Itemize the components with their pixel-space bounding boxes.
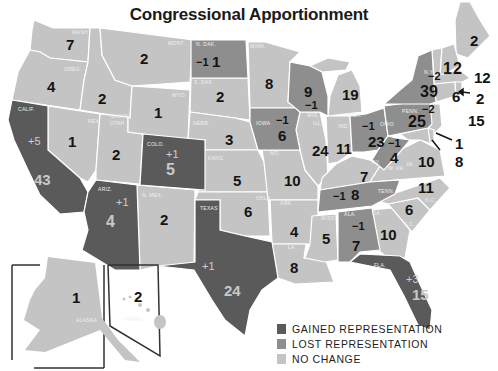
seats-idaho: 2 xyxy=(98,90,106,107)
abbr-calif: CALIF. xyxy=(18,106,35,112)
seats-ark: 4 xyxy=(290,223,299,240)
abbr-ariz: ARIZ. xyxy=(98,186,112,192)
change-wva: −1 xyxy=(388,137,401,149)
abbr-ky: KY. xyxy=(372,159,380,165)
change-colo: +1 xyxy=(166,148,179,160)
seats-wva: 4 xyxy=(390,149,399,166)
seats-ga: 10 xyxy=(380,226,397,243)
abbr-nmex: N. MEX. xyxy=(142,192,163,198)
abbr-alaska: ALASKA xyxy=(76,317,98,323)
abbr-okla: OKLA. xyxy=(256,195,272,201)
seats-calif: 43 xyxy=(34,171,51,188)
seats-md: 8 xyxy=(455,153,463,170)
abbr-ny: N.Y. xyxy=(424,69,434,75)
seats-miss: 5 xyxy=(322,230,330,247)
lost-swatch-icon xyxy=(277,339,286,349)
abbr-wyo: WYO. xyxy=(172,92,187,98)
abbr-texas: TEXAS xyxy=(200,205,218,211)
change-ariz: +1 xyxy=(116,196,129,208)
abbr-sc: S.C. xyxy=(404,221,415,227)
gained-swatch-icon xyxy=(277,324,286,334)
seats-sc: 6 xyxy=(405,201,413,218)
abbr-hawaii: HAWAII xyxy=(124,316,143,322)
arrow-del-icon xyxy=(436,133,452,140)
change-penn: −2 xyxy=(422,103,435,115)
state-alaska[interactable] xyxy=(24,257,140,362)
seats-penn: 25 xyxy=(408,113,426,130)
seats-conn: 6 xyxy=(452,88,460,105)
change-calif: +5 xyxy=(28,135,41,147)
seats-va: 10 xyxy=(418,153,435,170)
change-texas: +1 xyxy=(202,260,215,272)
abbr-nebr: NEBR. xyxy=(193,120,210,126)
map-legend: GAINED REPRESENTATION LOST REPRESENTATIO… xyxy=(277,321,442,366)
abbr-penn: PENN. xyxy=(402,108,419,114)
abbr-utah: UTAH xyxy=(110,120,125,126)
seats-utah: 2 xyxy=(112,146,120,163)
abbr-fla: FLA. xyxy=(374,262,386,268)
state-iowa[interactable] xyxy=(250,108,300,150)
abbr-ohio: OHIO xyxy=(380,121,394,127)
seats-nev: 1 xyxy=(68,133,76,150)
seats-mich: 19 xyxy=(342,86,359,103)
abbr-ga: GA. xyxy=(372,210,382,216)
seats-colo: 5 xyxy=(166,161,175,178)
abbr-iowa: IOWA xyxy=(256,120,271,126)
change-ala: −1 xyxy=(352,220,365,232)
seats-mont: 2 xyxy=(140,50,148,67)
seats-ny: 39 xyxy=(420,83,438,100)
seats-ind: 11 xyxy=(336,140,352,157)
seats-mass: 12 xyxy=(474,69,491,86)
seats-tenn: 8 xyxy=(351,186,359,203)
change-ndak: −1 xyxy=(196,56,209,68)
seats-ill: 24 xyxy=(312,142,329,159)
seats-ky: 7 xyxy=(360,168,368,185)
abbr-ala: ALA. xyxy=(344,211,356,217)
no-change-swatch-icon xyxy=(277,354,286,364)
seats-alaska: 1 xyxy=(72,289,80,306)
seats-ri: 2 xyxy=(476,90,484,107)
state-maine[interactable] xyxy=(455,2,490,58)
abbr-idaho: IDAHO xyxy=(110,113,127,119)
seats-wash: 7 xyxy=(66,36,74,53)
seats-me: 2 xyxy=(470,32,478,49)
seats-ndak: 1 xyxy=(212,53,220,70)
seats-ala: 7 xyxy=(352,237,360,254)
seats-fla: 15 xyxy=(412,286,429,303)
change-tenn: −1 xyxy=(333,190,346,202)
legend-no-change: NO CHANGE xyxy=(277,351,442,366)
change-iowa: −1 xyxy=(276,114,289,126)
seats-wyo: 1 xyxy=(154,104,162,121)
abbr-wash: WASH. xyxy=(72,29,90,35)
seats-nmex: 2 xyxy=(160,211,168,228)
seats-ariz: 4 xyxy=(106,213,115,230)
abbr-la: LA. xyxy=(288,244,296,250)
seats-minn: 8 xyxy=(265,75,273,92)
seats-mo: 10 xyxy=(284,172,301,189)
seats-nh: 2 xyxy=(453,60,462,77)
abbr-minn: MINN. xyxy=(250,43,266,49)
abbr-mont: MONT. xyxy=(168,40,185,46)
seats-nj: 15 xyxy=(468,112,485,129)
abbr-oreg: OREG. xyxy=(64,66,82,72)
seats-ohio: 23 xyxy=(368,133,385,150)
seats-nc: 11 xyxy=(418,179,434,196)
seats-del: 1 xyxy=(455,135,463,152)
legend-no-change-label: NO CHANGE xyxy=(292,353,361,365)
abbr-va: VA. xyxy=(406,161,415,167)
abbr-ill: ILL. xyxy=(313,120,323,126)
legend-lost-label: LOST REPRESENTATION xyxy=(292,338,428,350)
abbr-ind: IND. xyxy=(338,123,349,129)
abbr-kans: KANS. xyxy=(208,155,225,161)
seats-hawaii: 2 xyxy=(134,288,142,305)
abbr-wva: W. VA. xyxy=(388,165,405,171)
abbr-mich: MICH. xyxy=(346,112,362,118)
abbr-tenn: TENN. xyxy=(378,188,395,194)
legend-lost: LOST REPRESENTATION xyxy=(277,336,442,351)
seats-vt: 1 xyxy=(443,60,452,77)
abbr-colo: COLO. xyxy=(147,141,164,147)
abbr-nev: NEV. xyxy=(88,118,100,124)
abbr-ark: ARK. xyxy=(280,200,293,206)
seats-nebr: 3 xyxy=(225,131,233,148)
legend-gained-label: GAINED REPRESENTATION xyxy=(292,323,442,335)
